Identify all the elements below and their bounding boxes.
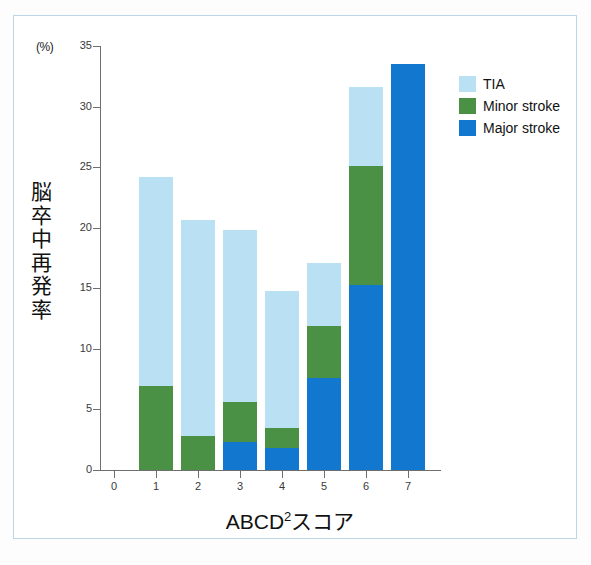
bar-chart-plot: (%) 脳卒中再発率 05101520253035 01234567 ABCD2… [0,0,591,565]
bar-abcd2-6[interactable] [349,87,383,470]
x-axis-tick [408,471,409,478]
legend-item-tia[interactable]: TIA [459,74,579,94]
y-axis-tick [93,107,101,108]
y-axis-tick-label-text: 15 [66,282,92,293]
y-axis-line [100,46,101,471]
y-axis-tick-label: 35 [62,40,92,52]
y-axis-tick-label: 0 [62,464,92,476]
x-axis-tick-label: 0 [102,481,126,492]
x-axis-tick [324,471,325,478]
y-axis-tick-label: 15 [62,282,92,294]
x-axis-tick [366,471,367,478]
x-axis-line [100,470,441,471]
y-axis-tick-label-text: 25 [66,161,92,172]
legend-swatch-icon [459,120,476,136]
bar-segment-minor-stroke [181,436,215,470]
x-axis-tick-label: 3 [228,481,252,492]
x-axis-tick-label: 6 [354,481,378,492]
bar-segment-major-stroke [307,378,341,470]
bar-abcd2-5[interactable] [307,263,341,470]
y-axis-tick-label-text: 5 [66,403,92,414]
bar-segment-major-stroke [265,448,299,470]
y-axis-title: 脳卒中再発率 [28,180,54,321]
y-axis-tick [93,288,101,289]
legend-item-label: Major stroke [483,120,560,136]
bar-abcd2-7[interactable] [391,64,425,470]
x-axis-tick-label: 4 [270,481,294,492]
y-axis-tick-label: 10 [62,343,92,355]
x-axis-tick-label: 5 [312,481,336,492]
legend: TIAMinor strokeMajor stroke [459,74,579,140]
x-axis-tick-label: 2 [186,481,210,492]
x-axis-tick [240,471,241,478]
y-axis-tick-label-text: 30 [66,101,92,112]
y-axis-tick-label-text: 0 [66,464,92,475]
y-axis-tick-label-text: 10 [66,343,92,354]
y-axis-tick [93,228,101,229]
y-axis-tick-label: 25 [62,161,92,173]
legend-item-minor-stroke[interactable]: Minor stroke [459,96,579,116]
x-axis-tick [282,471,283,478]
bar-segment-major-stroke [223,442,257,470]
y-axis-tick-label: 5 [62,403,92,415]
x-axis-tick-label: 1 [144,481,168,492]
x-axis-title: ABCD2スコア [160,505,420,535]
x-axis-title-main: ABCD [226,510,284,533]
legend-swatch-icon [459,76,476,92]
legend-item-label: TIA [483,76,505,92]
figure-page: (%) 脳卒中再発率 05101520253035 01234567 ABCD2… [0,0,591,565]
bar-segment-tia [181,220,215,470]
legend-swatch-icon [459,98,476,114]
bar-abcd2-4[interactable] [265,291,299,470]
bar-abcd2-3[interactable] [223,230,257,470]
legend-item-major-stroke[interactable]: Major stroke [459,118,579,138]
bar-abcd2-1[interactable] [139,177,173,470]
x-axis-tick [198,471,199,478]
y-axis-unit-label: (%) [36,40,53,54]
y-axis-tick-label-text: 35 [66,40,92,51]
x-axis-title-tail: スコア [291,510,354,533]
y-axis-tick [93,349,101,350]
y-axis-tick [93,470,101,471]
y-axis-tick [93,167,101,168]
y-axis-tick [93,409,101,410]
y-axis-tick-label-text: 20 [66,222,92,233]
x-axis-tick [114,471,115,478]
bar-segment-minor-stroke [139,386,173,470]
x-axis-tick-label: 7 [396,481,420,492]
bar-abcd2-2[interactable] [181,220,215,470]
x-axis-tick [156,471,157,478]
y-axis-tick-label: 30 [62,101,92,113]
legend-item-label: Minor stroke [483,98,560,114]
bar-segment-major-stroke [349,285,383,470]
bar-segment-major-stroke [391,64,425,470]
y-axis-tick [93,46,101,47]
y-axis-tick-label: 20 [62,222,92,234]
